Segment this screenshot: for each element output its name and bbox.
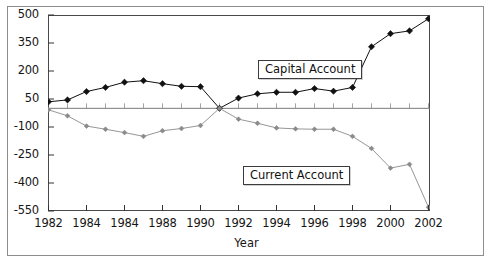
data-point-marker bbox=[387, 31, 393, 37]
data-point-marker bbox=[293, 126, 298, 131]
y-tick-label: -400 bbox=[0, 177, 39, 189]
data-point-marker bbox=[274, 126, 279, 131]
series-label-current-account: Current Account bbox=[243, 166, 350, 185]
data-point-marker bbox=[179, 126, 184, 131]
data-point-marker bbox=[407, 162, 412, 167]
data-point-marker bbox=[64, 97, 70, 103]
data-point-marker bbox=[273, 89, 279, 95]
data-point-marker bbox=[140, 78, 146, 84]
data-point-marker bbox=[255, 121, 260, 126]
y-tick-label: 350 bbox=[0, 37, 39, 49]
data-point-marker bbox=[102, 84, 108, 90]
series-line-current-account bbox=[49, 108, 429, 207]
data-point-marker bbox=[235, 95, 241, 101]
data-point-marker bbox=[292, 89, 298, 95]
data-point-marker bbox=[178, 83, 184, 89]
y-tick-label: 200 bbox=[0, 65, 39, 77]
x-axis-title: Year bbox=[0, 236, 493, 250]
data-point-marker bbox=[236, 117, 241, 122]
data-point-marker bbox=[330, 88, 336, 94]
data-point-marker bbox=[425, 16, 430, 22]
series-label-capital-account: Capital Account bbox=[258, 60, 362, 79]
y-tick-label: -550 bbox=[0, 205, 39, 217]
y-tick-label: -100 bbox=[0, 121, 39, 133]
y-tick-label: -250 bbox=[0, 149, 39, 161]
data-point-marker bbox=[312, 127, 317, 132]
data-point-marker bbox=[122, 130, 127, 135]
data-point-marker bbox=[83, 88, 89, 94]
data-point-marker bbox=[349, 84, 355, 90]
data-point-marker bbox=[84, 124, 89, 129]
y-tick-label: 50 bbox=[0, 93, 39, 105]
data-point-marker bbox=[103, 127, 108, 132]
data-point-marker bbox=[160, 128, 165, 133]
data-point-marker bbox=[65, 113, 70, 118]
data-point-marker bbox=[311, 85, 317, 91]
data-point-marker bbox=[254, 91, 260, 97]
data-point-marker bbox=[121, 79, 127, 85]
y-tick-label: 500 bbox=[0, 9, 39, 21]
data-point-marker bbox=[159, 81, 165, 87]
data-point-marker bbox=[368, 44, 374, 50]
data-point-marker bbox=[141, 134, 146, 139]
plot-canvas bbox=[48, 15, 430, 211]
data-point-marker bbox=[426, 205, 430, 210]
data-point-marker bbox=[331, 127, 336, 132]
x-tick-label: 2002 bbox=[407, 218, 451, 230]
chart-figure: 50035020050-100-250-400-550 198219841984… bbox=[0, 0, 493, 266]
data-point-marker bbox=[48, 99, 52, 105]
data-point-marker bbox=[350, 134, 355, 139]
data-point-marker bbox=[406, 28, 412, 34]
